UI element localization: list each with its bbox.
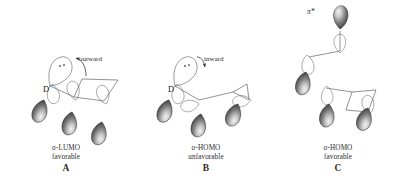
outward-annotation-label: outward <box>79 55 102 63</box>
lone-pair-dot <box>59 65 61 67</box>
structure-b-skeleton <box>175 84 249 100</box>
lone-pair-dot <box>188 64 190 66</box>
structure-b-donor-lobe <box>174 57 197 86</box>
structure-a-empty-lobes <box>45 80 112 106</box>
caption-a-letter: A <box>6 163 126 174</box>
caption-c-assessment: favorable <box>278 153 398 162</box>
caption-a: σ-LUMO favorable A <box>6 144 126 174</box>
structure-a-donor-lobe <box>49 57 72 86</box>
lone-pair-dot <box>63 64 65 66</box>
caption-c-orbital: σ-HOMO <box>278 144 398 153</box>
caption-b-assessment: unfavorable <box>146 153 266 162</box>
inward-annotation-label: inward <box>204 55 223 63</box>
structure-b-filled-lobes <box>155 98 244 138</box>
caption-a-assessment: favorable <box>6 153 126 162</box>
donor-atom-label-b: D <box>168 84 174 94</box>
caption-b: σ-HOMO unfavorable B <box>146 144 266 174</box>
structure-a <box>30 57 118 146</box>
structure-a-filled-lobes <box>30 98 108 146</box>
structure-c <box>294 6 376 132</box>
caption-a-orbital: σ-LUMO <box>6 144 126 153</box>
donor-atom-label-a: D <box>43 84 49 94</box>
caption-c-letter: C <box>278 163 398 174</box>
structure-c-skeleton <box>309 31 376 112</box>
caption-b-orbital: σ-HOMO <box>146 144 266 153</box>
structure-c-empty-lobes <box>300 34 376 115</box>
caption-b-letter: B <box>146 163 266 174</box>
pi-star-label: π* <box>307 7 315 16</box>
structure-b <box>155 57 252 138</box>
caption-c: σ-HOMO favorable C <box>278 144 398 174</box>
structure-c-filled-lobes <box>294 6 374 132</box>
lone-pair-dot <box>184 65 186 67</box>
